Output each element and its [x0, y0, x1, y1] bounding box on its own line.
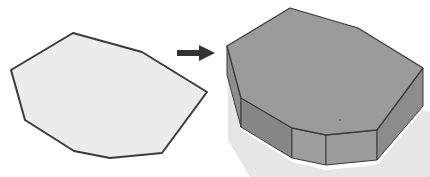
prism-dot [339, 119, 341, 121]
prism-side-front-right [326, 130, 377, 165]
extruded-prism [227, 8, 430, 177]
diagram-svg [0, 0, 430, 177]
arrow-right-icon [177, 45, 215, 61]
diagram-canvas [0, 0, 430, 177]
